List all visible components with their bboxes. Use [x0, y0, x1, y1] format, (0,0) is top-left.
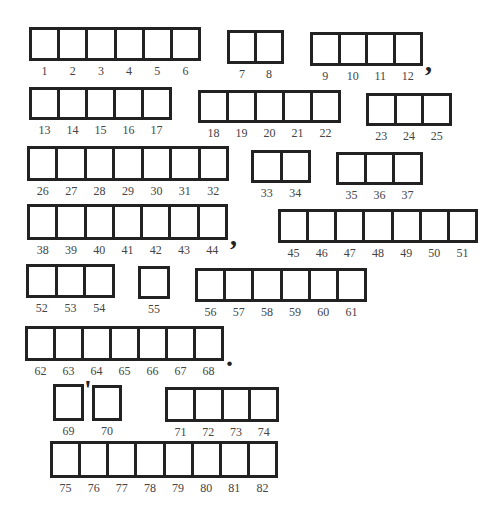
- letter-box[interactable]: 29: [115, 149, 143, 178]
- letter-box[interactable]: 26: [30, 149, 58, 178]
- box-number-label: 74: [258, 425, 270, 440]
- letter-box[interactable]: 55: [141, 269, 167, 296]
- letter-box[interactable]: 20: [257, 93, 285, 120]
- letter-box[interactable]: 36: [367, 155, 395, 182]
- letter-box[interactable]: 35: [339, 155, 367, 182]
- letter-box[interactable]: 48: [365, 212, 393, 240]
- letter-box[interactable]: 30: [144, 149, 172, 178]
- letter-box[interactable]: 47: [337, 212, 365, 240]
- letter-box[interactable]: 32: [201, 149, 226, 178]
- box-number-label: 80: [200, 481, 212, 496]
- letter-box[interactable]: 68: [196, 329, 221, 358]
- letter-box[interactable]: 28: [87, 149, 115, 178]
- letter-box[interactable]: 62: [28, 329, 56, 358]
- box-number-label: 47: [344, 246, 356, 261]
- letter-box[interactable]: 81: [222, 444, 250, 475]
- punctuation-mark: ,: [230, 222, 237, 250]
- box-number-label: 41: [121, 243, 133, 258]
- box-number-label: 8: [266, 67, 272, 82]
- letter-box[interactable]: 9: [313, 35, 341, 63]
- letter-box[interactable]: 12: [396, 35, 421, 63]
- letter-box[interactable]: 56: [198, 271, 226, 299]
- box-number-label: 28: [94, 184, 106, 199]
- letter-box[interactable]: 5: [145, 30, 173, 58]
- letter-box[interactable]: 16: [116, 90, 144, 117]
- letter-box[interactable]: 76: [81, 444, 109, 475]
- letter-box[interactable]: 43: [171, 207, 199, 237]
- letter-box[interactable]: 44: [200, 207, 225, 237]
- letter-box[interactable]: 19: [229, 93, 257, 120]
- letter-box[interactable]: 75: [53, 444, 81, 475]
- letter-box[interactable]: 17: [144, 90, 169, 117]
- letter-box[interactable]: 38: [30, 207, 58, 237]
- letter-box[interactable]: 72: [196, 390, 224, 419]
- letter-box[interactable]: 78: [137, 444, 165, 475]
- letter-box[interactable]: 27: [58, 149, 86, 178]
- letter-box[interactable]: 45: [281, 212, 309, 240]
- letter-box[interactable]: 54: [86, 267, 112, 295]
- letter-box[interactable]: 63: [56, 329, 84, 358]
- letter-box[interactable]: 37: [395, 155, 420, 182]
- letter-box[interactable]: 10: [341, 35, 369, 63]
- letter-box[interactable]: 80: [194, 444, 222, 475]
- letter-box[interactable]: 50: [422, 212, 450, 240]
- box-number-label: 71: [174, 425, 186, 440]
- box-number-label: 72: [202, 425, 214, 440]
- letter-box[interactable]: 49: [394, 212, 422, 240]
- letter-box[interactable]: 18: [201, 93, 229, 120]
- letter-box[interactable]: 1: [32, 30, 60, 58]
- box-number-label: 48: [372, 246, 384, 261]
- letter-box[interactable]: 70: [95, 388, 119, 418]
- letter-box[interactable]: 57: [226, 271, 254, 299]
- letter-box[interactable]: 41: [115, 207, 143, 237]
- letter-box[interactable]: 24: [397, 96, 425, 123]
- letter-box[interactable]: 4: [117, 30, 145, 58]
- letter-box[interactable]: 77: [109, 444, 137, 475]
- letter-box[interactable]: 71: [168, 390, 196, 419]
- letter-box[interactable]: 21: [285, 93, 313, 120]
- letter-box[interactable]: 46: [309, 212, 337, 240]
- word-group-w11: 45464748495051: [278, 209, 478, 243]
- letter-box[interactable]: 79: [166, 444, 194, 475]
- letter-box[interactable]: 23: [369, 96, 397, 123]
- letter-box[interactable]: 8: [257, 33, 281, 61]
- word-group-w14: 565758596061: [195, 268, 367, 302]
- letter-box[interactable]: 39: [58, 207, 86, 237]
- letter-box[interactable]: 58: [254, 271, 282, 299]
- letter-box[interactable]: 61: [339, 271, 364, 299]
- box-number-label: 58: [261, 305, 273, 320]
- letter-box[interactable]: 59: [283, 271, 311, 299]
- letter-box[interactable]: 60: [311, 271, 339, 299]
- letter-box[interactable]: 22: [313, 93, 338, 120]
- letter-box[interactable]: 34: [283, 153, 309, 180]
- letter-box[interactable]: 64: [84, 329, 112, 358]
- letter-box[interactable]: 25: [424, 96, 449, 123]
- letter-box[interactable]: 66: [140, 329, 168, 358]
- letter-box[interactable]: 69: [56, 387, 81, 418]
- letter-box[interactable]: 3: [88, 30, 116, 58]
- letter-box[interactable]: 82: [250, 444, 275, 475]
- letter-box[interactable]: 2: [60, 30, 88, 58]
- letter-box[interactable]: 33: [254, 153, 283, 180]
- letter-box[interactable]: 6: [173, 30, 198, 58]
- box-number-label: 30: [150, 184, 162, 199]
- letter-box[interactable]: 52: [29, 267, 58, 295]
- letter-box[interactable]: 51: [450, 212, 475, 240]
- letter-box[interactable]: 13: [32, 90, 60, 117]
- letter-box[interactable]: 14: [60, 90, 88, 117]
- letter-box[interactable]: 11: [368, 35, 396, 63]
- letter-box[interactable]: 67: [168, 329, 196, 358]
- box-number-label: 81: [228, 481, 240, 496]
- letter-box[interactable]: 42: [143, 207, 171, 237]
- letter-box[interactable]: 15: [88, 90, 116, 117]
- letter-box[interactable]: 73: [224, 390, 252, 419]
- box-number-label: 50: [428, 246, 440, 261]
- letter-box[interactable]: 74: [251, 390, 276, 419]
- box-number-label: 5: [154, 64, 160, 79]
- box-number-label: 52: [36, 301, 48, 316]
- letter-box[interactable]: 40: [87, 207, 115, 237]
- letter-box[interactable]: 31: [172, 149, 200, 178]
- letter-box[interactable]: 53: [58, 267, 87, 295]
- letter-box[interactable]: 7: [230, 33, 257, 61]
- letter-box[interactable]: 65: [112, 329, 140, 358]
